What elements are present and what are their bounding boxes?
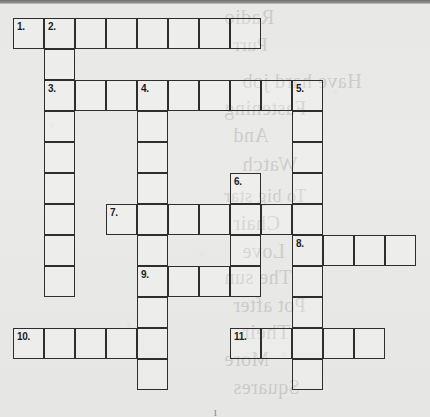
clue-number-1: 1.	[17, 22, 25, 32]
clue-number-3: 3.	[48, 84, 56, 94]
crossword-cell-r11-c10[interactable]	[292, 328, 323, 359]
crossword-cell-r7-c7[interactable]	[199, 204, 230, 235]
crossword-cell-r4-c10[interactable]	[292, 111, 323, 142]
crossword-cell-r11-c2[interactable]	[44, 328, 75, 359]
crossword-cell-r3-c3[interactable]	[75, 80, 106, 111]
page-footer-mark: 1	[213, 408, 218, 417]
crossword-cell-r3-c4[interactable]	[106, 80, 137, 111]
crossword-cell-r11-c5[interactable]	[137, 328, 168, 359]
crossword-cell-r7-c6[interactable]	[168, 204, 199, 235]
clue-number-7: 7.	[110, 208, 118, 218]
crossword-cell-r9-c6[interactable]	[168, 266, 199, 297]
crossword-cell-r1-c5[interactable]	[137, 18, 168, 49]
crossword-cell-r1-c4[interactable]	[106, 18, 137, 49]
crossword-cell-r8-c12[interactable]	[354, 235, 385, 266]
crossword-cell-r1-c6[interactable]	[168, 18, 199, 49]
crossword-cell-r6-c10[interactable]	[292, 173, 323, 204]
crossword-cell-r2-c2[interactable]	[44, 49, 75, 80]
crossword-cell-r3-c9[interactable]	[261, 80, 292, 111]
crossword-cell-r9-c10[interactable]	[292, 266, 323, 297]
crossword-cell-r7-c10[interactable]	[292, 204, 323, 235]
crossword-cell-r7-c2[interactable]	[44, 204, 75, 235]
crossword-cell-r3-c7[interactable]	[199, 80, 230, 111]
clue-number-8: 8.	[296, 239, 304, 249]
clue-number-10: 10.	[17, 332, 30, 342]
clue-number-5: 5.	[296, 84, 304, 94]
crossword-cell-r9-c8[interactable]	[230, 266, 261, 297]
clue-number-9: 9.	[141, 270, 149, 280]
crossword-cell-r8-c13[interactable]	[385, 235, 416, 266]
crossword-cell-r10-c10[interactable]	[292, 297, 323, 328]
clue-number-4: 4.	[141, 84, 149, 94]
crossword-cell-r5-c10[interactable]	[292, 142, 323, 173]
crossword-cell-r12-c10[interactable]	[292, 359, 323, 390]
crossword-cell-r11-c4[interactable]	[106, 328, 137, 359]
crossword-cell-r4-c5[interactable]	[137, 111, 168, 142]
crossword-cell-r9-c2[interactable]	[44, 266, 75, 297]
crossword-cell-r1-c8[interactable]	[230, 18, 261, 49]
crossword-cell-r5-c5[interactable]	[137, 142, 168, 173]
crossword-cell-r1-c7[interactable]	[199, 18, 230, 49]
crossword-cell-r7-c5[interactable]	[137, 204, 168, 235]
crossword-cell-r10-c5[interactable]	[137, 297, 168, 328]
crossword-cell-r3-c8[interactable]	[230, 80, 261, 111]
crossword-cell-r8-c11[interactable]	[323, 235, 354, 266]
crossword-cell-r7-c9[interactable]	[261, 204, 292, 235]
crossword-cell-r7-c8[interactable]	[230, 204, 261, 235]
crossword-cell-r11-c11[interactable]	[323, 328, 354, 359]
clue-number-6: 6.	[234, 177, 242, 187]
crossword-grid[interactable]: 1.2.3.4.5.6.7.8.9.10.11.	[0, 0, 430, 417]
crossword-cell-r11-c3[interactable]	[75, 328, 106, 359]
crossword-cell-r9-c7[interactable]	[199, 266, 230, 297]
clue-number-11: 11.	[234, 332, 246, 342]
crossword-cell-r11-c12[interactable]	[354, 328, 385, 359]
crossword-cell-r6-c5[interactable]	[137, 173, 168, 204]
crossword-cell-r4-c2[interactable]	[44, 111, 75, 142]
crossword-cell-r8-c5[interactable]	[137, 235, 168, 266]
crossword-cell-r8-c8[interactable]	[230, 235, 261, 266]
crossword-cell-r11-c9[interactable]	[261, 328, 292, 359]
crossword-cell-r5-c2[interactable]	[44, 142, 75, 173]
crossword-cell-r3-c6[interactable]	[168, 80, 199, 111]
clue-number-2: 2.	[48, 22, 56, 32]
crossword-cell-r8-c2[interactable]	[44, 235, 75, 266]
crossword-cell-r12-c5[interactable]	[137, 359, 168, 390]
crossword-cell-r1-c3[interactable]	[75, 18, 106, 49]
crossword-cell-r6-c2[interactable]	[44, 173, 75, 204]
